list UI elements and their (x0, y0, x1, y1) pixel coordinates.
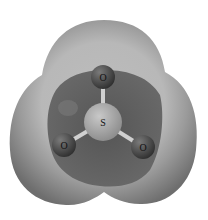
atom-label-o: O (99, 72, 106, 83)
atom-sulfur: S (84, 103, 122, 141)
atom-oxygen-top: O (91, 65, 115, 89)
atom-label-s: S (100, 117, 106, 128)
molecule-figure: S O O O (0, 0, 208, 220)
atom-oxygen-left: O (52, 133, 76, 157)
atom-label-o: O (139, 142, 146, 153)
atom-oxygen-right: O (131, 135, 155, 159)
atom-label-o: O (60, 140, 67, 151)
